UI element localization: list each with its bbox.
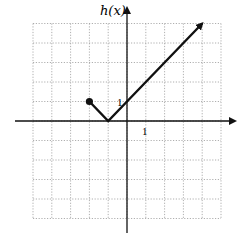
y-axis-label: h(x) — [100, 3, 126, 18]
graph: h(x) 1 1 — [0, 0, 237, 236]
closed-endpoint-dot — [86, 98, 93, 105]
x-tick-label-1: 1 — [142, 125, 148, 137]
